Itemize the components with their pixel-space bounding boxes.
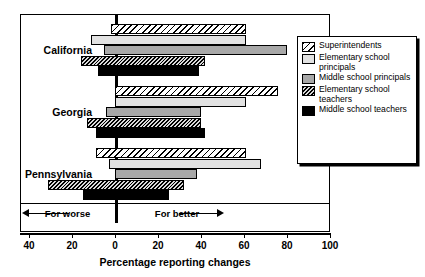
legend-rows: SuperintendentsElementary school princip…	[302, 41, 413, 116]
x-tick-2	[115, 233, 116, 238]
bar-pennsylvania-superintendents	[96, 148, 247, 158]
group-label-pennsylvania: Pennsylvania	[2, 168, 92, 180]
x-tick-7	[330, 233, 331, 238]
legend-item-4: Middle school teachers	[302, 105, 413, 116]
chart-legend: SuperintendentsElementary school princip…	[297, 36, 417, 164]
legend-item-label: Elementary school teachers	[319, 85, 413, 104]
bar-california-elementary-school-principals	[91, 35, 246, 45]
bar-georgia-superintendents	[115, 86, 278, 96]
legend-item-1: Elementary school principals	[302, 53, 413, 72]
x-axis-title: Percentage reporting changes	[0, 256, 350, 268]
group-label-georgia: Georgia	[2, 106, 92, 118]
bar-california-middle-school-principals	[104, 45, 287, 55]
bar-california-superintendents	[111, 24, 246, 34]
x-tick-label-2: 0	[112, 240, 118, 251]
for-worse-label: For worse	[45, 208, 90, 219]
bar-california-middle-school-teachers	[98, 66, 199, 76]
bar-georgia-elementary-school-teachers	[87, 118, 201, 128]
legend-item-label: Superintendents	[319, 41, 382, 51]
bar-georgia-middle-school-principals	[106, 107, 201, 117]
legend-item-label: Middle school teachers	[319, 105, 407, 115]
right-arrow-head-icon	[217, 209, 224, 217]
x-tick-1	[72, 233, 73, 238]
x-tick-5	[244, 233, 245, 238]
bar-georgia-elementary-school-principals	[115, 97, 246, 107]
x-tick-label-4: 40	[195, 240, 206, 251]
x-tick-0	[29, 233, 30, 238]
x-tick-label-6: 80	[281, 240, 292, 251]
bar-pennsylvania-middle-school-principals	[115, 169, 197, 179]
solid-black-swatch-icon	[302, 106, 315, 116]
x-tick-4	[201, 233, 202, 238]
x-tick-6	[287, 233, 288, 238]
legend-item-0: Superintendents	[302, 41, 413, 52]
medium-gray-swatch-icon	[302, 74, 315, 84]
legend-item-label: Middle school principals	[319, 73, 410, 83]
group-label-california: California	[2, 44, 92, 56]
x-tick-label-5: 60	[238, 240, 249, 251]
x-tick-label-3: 20	[152, 240, 163, 251]
direction-annotation-band: For worse For better	[20, 203, 330, 222]
light-gray-swatch-icon	[302, 54, 315, 64]
plot-area: CaliforniaGeorgiaPennsylvania	[20, 14, 330, 200]
x-tick-3	[158, 233, 159, 238]
legend-item-3: Elementary school teachers	[302, 85, 413, 104]
bar-georgia-middle-school-teachers	[96, 128, 206, 138]
dense-hatch-swatch-icon	[302, 86, 315, 96]
diagonal-hatch-swatch-icon	[302, 42, 315, 52]
for-worse-annotation: For worse	[20, 204, 115, 222]
legend-item-label: Elementary school principals	[319, 53, 413, 72]
x-tick-label-7: 100	[322, 240, 339, 251]
bar-pennsylvania-elementary-school-principals	[109, 159, 262, 169]
bar-pennsylvania-elementary-school-teachers	[48, 180, 183, 190]
x-tick-label-0: 40	[23, 240, 34, 251]
legend-item-2: Middle school principals	[302, 73, 413, 84]
right-arrow-shaft	[179, 213, 221, 214]
chart-figure: CaliforniaGeorgiaPennsylvania For worse …	[0, 0, 425, 277]
x-axis-line	[20, 233, 330, 235]
bar-pennsylvania-middle-school-teachers	[83, 190, 169, 200]
bar-california-elementary-school-teachers	[81, 56, 206, 66]
x-tick-label-1: 20	[66, 240, 77, 251]
